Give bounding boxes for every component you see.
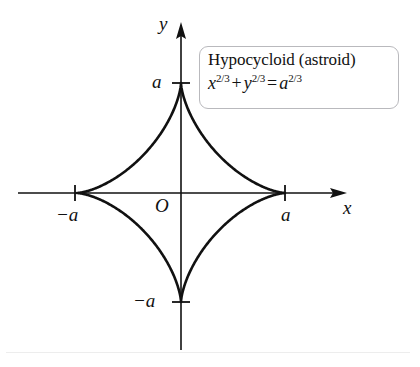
equation-term-a: a	[279, 73, 288, 93]
equation-exponent-a: 2/3	[288, 72, 301, 84]
astroid-figure: y x a −a −a a O Hypocycloid (astroid) x2…	[0, 0, 420, 367]
equation-operator-plus: +	[229, 73, 243, 93]
page-baseline-rule	[6, 352, 410, 353]
equation-exponent-y: 2/3	[252, 72, 265, 84]
origin-label: O	[155, 196, 169, 215]
tick-label-x-positive-a: a	[281, 205, 291, 224]
callout-equation: x2/3+y2/3=a2/3	[208, 73, 391, 94]
equation-term-x: x	[208, 73, 216, 93]
callout-box: Hypocycloid (astroid) x2/3+y2/3=a2/3	[199, 46, 399, 109]
equation-term-y: y	[244, 73, 252, 93]
y-axis-label: y	[159, 14, 167, 33]
callout-title: Hypocycloid (astroid)	[208, 51, 391, 69]
tick-label-y-negative-a: −a	[133, 291, 155, 310]
x-axis-label: x	[343, 198, 351, 217]
tick-label-y-positive-a: a	[152, 72, 162, 91]
equation-operator-equals: =	[265, 73, 279, 93]
equation-exponent-x: 2/3	[216, 72, 229, 84]
tick-label-x-negative-a: −a	[56, 205, 78, 224]
